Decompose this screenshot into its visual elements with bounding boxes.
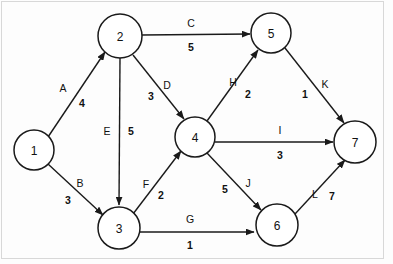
- edge-name-label-g: G: [186, 213, 194, 225]
- edge-name-label-f: F: [143, 178, 149, 190]
- edge-weight-label-k: 1: [302, 88, 308, 100]
- edge-arrow-b: [48, 164, 103, 215]
- edge-name-label-d: D: [163, 79, 171, 91]
- graph-canvas: 1234567 A4B3C5D3E5F2G1H2I3J5K1L7: [0, 0, 393, 264]
- node-3[interactable]: 3: [98, 207, 140, 249]
- node-label-1: 1: [31, 144, 38, 158]
- edge-name-label-b: B: [76, 177, 83, 189]
- edge-weight-label-g: 1: [187, 239, 193, 251]
- node-label-5: 5: [268, 27, 275, 41]
- node-5[interactable]: 5: [251, 13, 291, 53]
- edge-arrow-f: [133, 151, 181, 214]
- edge-f[interactable]: [133, 151, 181, 214]
- edge-weight-label-d: 3: [148, 90, 154, 102]
- node-4[interactable]: 4: [175, 117, 215, 157]
- edge-name-label-j: J: [245, 177, 250, 189]
- edge-a[interactable]: [48, 52, 105, 137]
- edge-arrow-j: [207, 153, 261, 210]
- edge-arrow-d: [133, 55, 184, 119]
- edge-b[interactable]: [48, 164, 103, 215]
- edge-weight-label-c: 5: [188, 41, 194, 53]
- edge-d[interactable]: [133, 55, 184, 119]
- edge-name-label-c: C: [187, 17, 195, 29]
- graph-diagram: 1234567 A4B3C5D3E5F2G1H2I3J5K1L7: [0, 0, 393, 264]
- edge-arrow-c: [142, 34, 250, 35]
- edge-e[interactable]: [119, 58, 120, 205]
- node-label-2: 2: [117, 30, 124, 44]
- edge-arrow-a: [48, 52, 105, 137]
- edge-arrow-l: [295, 160, 345, 214]
- node-label-3: 3: [116, 222, 123, 236]
- edge-c[interactable]: [142, 34, 250, 35]
- node-6[interactable]: 6: [256, 204, 298, 246]
- edge-name-label-l: L: [312, 188, 318, 200]
- edge-weight-label-b: 3: [65, 194, 71, 206]
- node-1[interactable]: 1: [14, 130, 54, 170]
- edge-l[interactable]: [295, 160, 345, 214]
- edge-arrow-e: [119, 58, 120, 205]
- node-label-4: 4: [192, 131, 199, 145]
- edge-weight-label-f: 2: [158, 189, 164, 201]
- edge-name-label-k: K: [321, 78, 328, 90]
- nodes-layer: 1234567: [14, 13, 376, 249]
- edge-name-label-e: E: [103, 125, 110, 137]
- edge-name-label-a: A: [59, 82, 66, 94]
- edge-k[interactable]: [285, 48, 344, 123]
- node-label-6: 6: [274, 219, 281, 233]
- edge-arrow-k: [285, 48, 344, 123]
- node-7[interactable]: 7: [334, 121, 376, 163]
- node-2[interactable]: 2: [98, 14, 142, 58]
- edge-weight-label-e: 5: [128, 125, 134, 137]
- edge-weight-label-i: 3: [277, 149, 283, 161]
- edge-weight-label-l: 7: [329, 190, 335, 202]
- edge-weight-label-a: 4: [79, 97, 85, 109]
- edge-weight-label-j: 5: [222, 183, 228, 195]
- edge-name-label-i: I: [279, 124, 282, 136]
- node-label-7: 7: [352, 136, 359, 150]
- edge-weight-label-h: 2: [245, 88, 251, 100]
- edge-name-label-h: H: [229, 76, 237, 88]
- edge-j[interactable]: [207, 153, 261, 210]
